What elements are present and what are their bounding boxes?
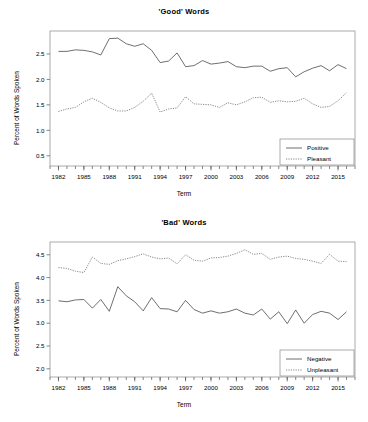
x-tick-label: 2003 (230, 384, 244, 391)
x-tick-label: 2000 (204, 173, 218, 180)
x-tick-label: 2009 (280, 384, 294, 391)
x-tick-label: 2015 (331, 384, 345, 391)
legend-label-unpleasant: Unpleasant (307, 366, 339, 373)
x-tick-label: 2006 (255, 384, 269, 391)
x-tick-label: 1985 (77, 173, 91, 180)
y-tick-label: 3.5 (36, 297, 45, 304)
y-tick-label: 2.0 (36, 365, 45, 372)
y-tick-label: 2.5 (36, 50, 45, 57)
x-tick-label: 1997 (179, 384, 193, 391)
y-tick-label: 1.0 (36, 127, 45, 134)
y-tick-label: 0.5 (36, 152, 45, 159)
x-tick-label: 2012 (306, 173, 320, 180)
x-tick-label: 2000 (204, 384, 218, 391)
y-tick-label: 2.0 (36, 76, 45, 83)
x-tick-label: 1991 (128, 173, 142, 180)
plot-area-good: 0.51.01.52.02.51982198519881991199419972… (0, 0, 368, 211)
legend-label-positive: Positive (307, 144, 329, 151)
x-tick-label: 2003 (230, 173, 244, 180)
x-tick-label: 2006 (255, 173, 269, 180)
legend-label-pleasant: Pleasant (307, 155, 331, 162)
x-tick-label: 2009 (280, 173, 294, 180)
chart-panel-good: 'Good' Words Percent of Words Spoken Ter… (0, 0, 368, 211)
x-tick-label: 1994 (153, 173, 167, 180)
x-tick-label: 2015 (331, 173, 345, 180)
x-tick-label: 1997 (179, 173, 193, 180)
x-tick-label: 1985 (77, 384, 91, 391)
plot-area-bad: 2.02.53.03.54.04.51982198519881991199419… (0, 211, 368, 422)
series-line-unpleasant (58, 250, 346, 273)
chart-panel-bad: 'Bad' Words Percent of Words Spoken Term… (0, 211, 368, 422)
x-tick-label: 1982 (52, 173, 66, 180)
y-tick-label: 4.0 (36, 274, 45, 281)
x-tick-label: 2012 (306, 384, 320, 391)
x-tick-label: 1991 (128, 384, 142, 391)
x-tick-label: 1982 (52, 384, 66, 391)
figure-root: 'Good' Words Percent of Words Spoken Ter… (0, 0, 368, 422)
series-line-pleasant (58, 93, 346, 112)
y-tick-label: 4.5 (36, 251, 45, 258)
series-line-negative (58, 287, 346, 324)
x-tick-label: 1988 (102, 173, 116, 180)
series-line-positive (58, 38, 346, 77)
y-tick-label: 2.5 (36, 342, 45, 349)
y-tick-label: 3.0 (36, 319, 45, 326)
x-tick-label: 1988 (102, 384, 116, 391)
y-tick-label: 1.5 (36, 101, 45, 108)
legend-label-negative: Negative (307, 355, 332, 362)
x-tick-label: 1994 (153, 384, 167, 391)
